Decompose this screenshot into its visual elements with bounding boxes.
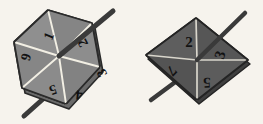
spinner-illustration: 1 2 3 4 5 6 bbox=[0, 0, 263, 124]
right-sector-label-2: 2 bbox=[185, 34, 193, 50]
spinner-scene: 1 2 3 4 5 6 bbox=[0, 0, 263, 124]
right-sector-label-5: 5 bbox=[203, 75, 211, 91]
